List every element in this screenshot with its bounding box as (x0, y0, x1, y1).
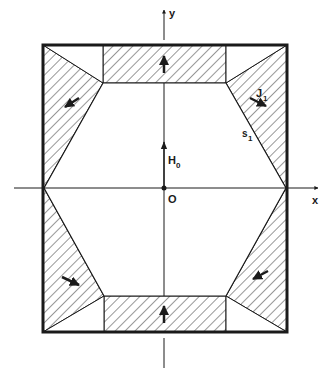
field-label: H (168, 154, 176, 166)
y-axis-label: y (169, 7, 176, 19)
x-axis-label: x (312, 194, 319, 206)
diagram-canvas: y x O H 0 J 1 s 1 (0, 0, 332, 377)
current-label: J (256, 87, 262, 99)
surface-subscript: 1 (248, 134, 253, 143)
current-subscript: 1 (263, 94, 268, 103)
field-subscript: 0 (176, 161, 181, 170)
origin-label: O (168, 193, 177, 205)
